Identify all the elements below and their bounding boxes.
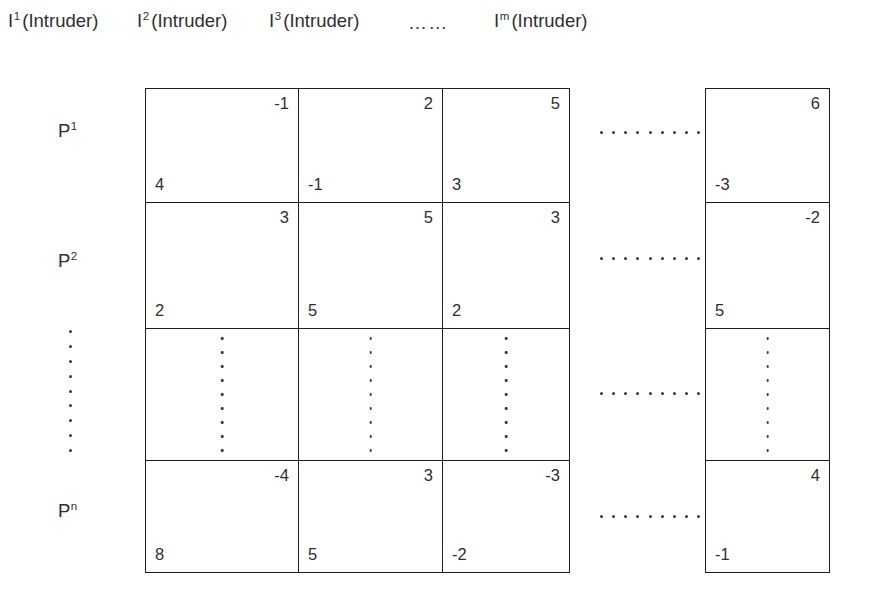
dot <box>505 421 508 424</box>
intruder-name-2: (Intruder) <box>151 10 227 31</box>
payoff-matrix-main: -142-153325532-4835-3-2 <box>145 88 570 573</box>
dot <box>766 407 769 410</box>
matrix-cell-r1-c1[interactable]: -14 <box>146 89 299 203</box>
dot <box>685 131 688 134</box>
matrix-cell-r4-c1[interactable]: -48 <box>146 461 299 572</box>
dot <box>612 131 615 134</box>
cell-value-bottom-left: 5 <box>308 300 317 320</box>
dot <box>649 515 652 518</box>
dot <box>221 379 224 382</box>
intruder-name-m: (Intruder) <box>511 10 587 31</box>
row-header-pn: Pn <box>58 500 77 522</box>
dot <box>221 337 224 340</box>
dot <box>697 392 700 395</box>
cell-value-top-right: 3 <box>424 465 433 485</box>
dot <box>661 392 664 395</box>
dot <box>766 393 769 396</box>
matrix-cell-r4-c3[interactable]: -3-2 <box>443 461 569 572</box>
row-symbol-pn: P <box>58 500 70 521</box>
dot <box>766 337 769 340</box>
dot <box>505 449 508 452</box>
dot <box>661 131 664 134</box>
dot <box>673 257 676 260</box>
dot <box>649 257 652 260</box>
dot <box>685 392 688 395</box>
dot <box>505 337 508 340</box>
matrix-cell-r1-cm[interactable]: 6-3 <box>706 89 829 203</box>
cell-value-bottom-left: 5 <box>308 544 317 564</box>
dot <box>369 435 372 438</box>
cell-vertical-dots <box>766 337 769 452</box>
cell-value-bottom-left: -3 <box>715 174 730 194</box>
matrix-cell-r2-c2[interactable]: 55 <box>299 203 443 329</box>
dot <box>369 393 372 396</box>
dot <box>369 365 372 368</box>
dot <box>505 365 508 368</box>
dot <box>69 360 72 363</box>
row-superscript-p1: 1 <box>70 120 77 132</box>
dot <box>221 365 224 368</box>
dot <box>649 392 652 395</box>
dot <box>685 257 688 260</box>
dot <box>505 393 508 396</box>
intruder-header-2: I2(Intruder) <box>137 8 227 34</box>
dot <box>221 407 224 410</box>
matrix-cell-r1-c3[interactable]: 53 <box>443 89 569 203</box>
dot <box>369 407 372 410</box>
dot <box>624 131 627 134</box>
dot <box>649 131 652 134</box>
intruder-name-1: (Intruder) <box>22 10 98 31</box>
dot <box>69 330 72 333</box>
cell-value-bottom-left: 4 <box>155 174 164 194</box>
dot <box>766 421 769 424</box>
cell-value-top-right: -1 <box>274 93 289 113</box>
dot <box>600 131 603 134</box>
cell-value-bottom-left: 8 <box>155 544 164 564</box>
intruder-name-3: (Intruder) <box>283 10 359 31</box>
dot <box>685 515 688 518</box>
intruder-header-3: I3(Intruder) <box>269 8 359 34</box>
dot <box>612 257 615 260</box>
dot <box>369 421 372 424</box>
matrix-cell-r4-cm[interactable]: 4-1 <box>706 461 829 572</box>
dot <box>624 392 627 395</box>
matrix-cell-r2-cm[interactable]: -25 <box>706 203 829 329</box>
intruder-superscript-m: m <box>499 10 510 22</box>
dot <box>369 379 372 382</box>
intruder-header-row: I1(Intruder) I2(Intruder) I3(Intruder) …… <box>0 8 884 42</box>
matrix-cell-r3-cm[interactable] <box>706 329 829 461</box>
cell-value-top-right: -2 <box>805 207 820 227</box>
intruder-header-m: Im(Intruder) <box>494 8 588 34</box>
dot <box>69 449 72 452</box>
intruder-superscript-3: 3 <box>274 10 282 22</box>
row-symbol-p2: P <box>58 250 70 271</box>
cell-value-bottom-left: -1 <box>308 174 323 194</box>
cell-value-bottom-left: 3 <box>452 174 461 194</box>
matrix-cell-r2-c1[interactable]: 32 <box>146 203 299 329</box>
dot <box>369 351 372 354</box>
matrix-cell-r3-c1[interactable] <box>146 329 299 461</box>
dot <box>369 449 372 452</box>
matrix-cell-r3-c3[interactable] <box>443 329 569 461</box>
row-header-p1: P1 <box>58 120 77 142</box>
dot <box>505 379 508 382</box>
row-superscript-p2: 2 <box>70 250 77 262</box>
dot <box>69 419 72 422</box>
cell-value-bottom-left: -2 <box>452 544 467 564</box>
matrix-cell-r2-c3[interactable]: 32 <box>443 203 569 329</box>
dot <box>69 375 72 378</box>
row-ellipsis-3 <box>600 392 700 395</box>
matrix-cell-r4-c2[interactable]: 35 <box>299 461 443 572</box>
dot <box>697 515 700 518</box>
intruder-header-1: I1(Intruder) <box>8 8 98 34</box>
cell-vertical-dots <box>505 337 508 452</box>
dot <box>697 131 700 134</box>
dot <box>661 257 664 260</box>
matrix-cell-r1-c2[interactable]: 2-1 <box>299 89 443 203</box>
dot <box>69 434 72 437</box>
matrix-cell-r3-c2[interactable] <box>299 329 443 461</box>
dot <box>673 131 676 134</box>
cell-vertical-dots <box>369 337 372 452</box>
row-header-vertical-dots <box>64 330 76 452</box>
cell-value-top-right: 3 <box>551 207 560 227</box>
